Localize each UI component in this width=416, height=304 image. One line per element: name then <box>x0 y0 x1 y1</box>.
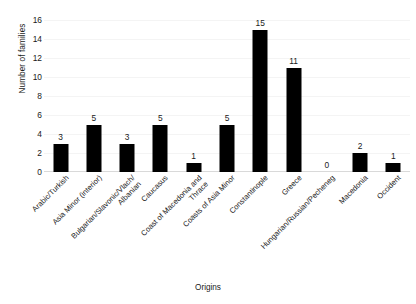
y-axis-tick-label: 12 <box>22 54 42 62</box>
bar-slot: 0 <box>310 20 343 172</box>
bar <box>353 153 368 172</box>
bar-chart: Number of families 0246810121416 3535151… <box>0 0 416 304</box>
bar-slot: 5 <box>144 20 177 172</box>
y-axis-tick-label: 8 <box>22 92 42 100</box>
bar-value-label: 5 <box>225 114 230 123</box>
bar <box>86 125 101 173</box>
bar-value-label: 11 <box>289 57 298 66</box>
bar-value-label: 15 <box>256 19 265 28</box>
bar <box>253 30 268 173</box>
bar <box>53 144 68 173</box>
y-axis-tick-label: 6 <box>22 111 42 119</box>
bar-value-label: 1 <box>391 152 396 161</box>
x-axis-title: Origins <box>0 283 416 292</box>
bar-slot: 5 <box>210 20 243 172</box>
bar-slot: 15 <box>244 20 277 172</box>
bar <box>286 68 301 173</box>
bar-value-label: 0 <box>324 161 329 170</box>
bar-slot: 1 <box>177 20 210 172</box>
bar <box>153 125 168 173</box>
bar-value-label: 5 <box>92 114 97 123</box>
y-axis-tick-label: 0 <box>22 168 42 176</box>
plot-area: 3535151511021 <box>44 20 410 172</box>
bar <box>120 144 135 173</box>
bar-value-label: 1 <box>191 152 196 161</box>
bar <box>386 163 401 173</box>
bar-value-label: 3 <box>125 133 130 142</box>
bar-slot: 5 <box>77 20 110 172</box>
y-axis-tick-label: 16 <box>22 16 42 24</box>
y-axis-tick-label: 10 <box>22 73 42 81</box>
bar-slot: 3 <box>44 20 77 172</box>
y-axis-tick-label: 2 <box>22 149 42 157</box>
y-axis-tick-label: 4 <box>22 130 42 138</box>
bar-slot: 1 <box>377 20 410 172</box>
bar-value-label: 3 <box>58 133 63 142</box>
x-axis-tick-labels: Arabic/TurkishAsia Minor (interior)Bulga… <box>44 174 410 270</box>
bar-value-label: 5 <box>158 114 163 123</box>
bar <box>186 163 201 173</box>
y-axis-tick-labels: 0246810121416 <box>22 20 42 172</box>
bar-slot: 2 <box>343 20 376 172</box>
bar-value-label: 2 <box>358 142 363 151</box>
bar <box>219 125 234 173</box>
bar-slot: 3 <box>111 20 144 172</box>
y-axis-tick-label: 14 <box>22 35 42 43</box>
bar-slot: 11 <box>277 20 310 172</box>
